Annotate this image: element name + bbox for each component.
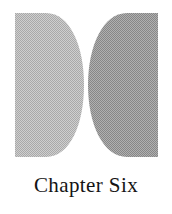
two-half-discs-figure [0,0,172,170]
page-title: Chapter Six [0,172,172,198]
chapter-opener-page: Chapter Six [0,0,172,214]
left-half-disc [15,13,84,157]
right-half-disc [88,13,158,157]
